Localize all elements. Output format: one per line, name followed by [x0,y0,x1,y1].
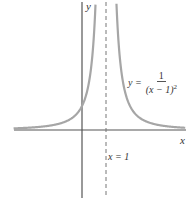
graph-canvas [0,0,190,205]
equation-denominator: (x − 1)2 [146,82,177,95]
equation-lhs: y = [128,77,142,88]
y-axis-label: y [86,0,91,12]
equation-fraction: 1 (x − 1)2 [146,70,177,95]
x-axis-label: x [180,134,185,146]
equation-numerator: 1 [157,70,166,82]
curve-left-branch [14,5,96,129]
asymptote-label: x = 1 [108,151,129,162]
curve-right-branch [116,4,185,128]
equation-label: y = 1 (x − 1)2 [128,70,177,95]
